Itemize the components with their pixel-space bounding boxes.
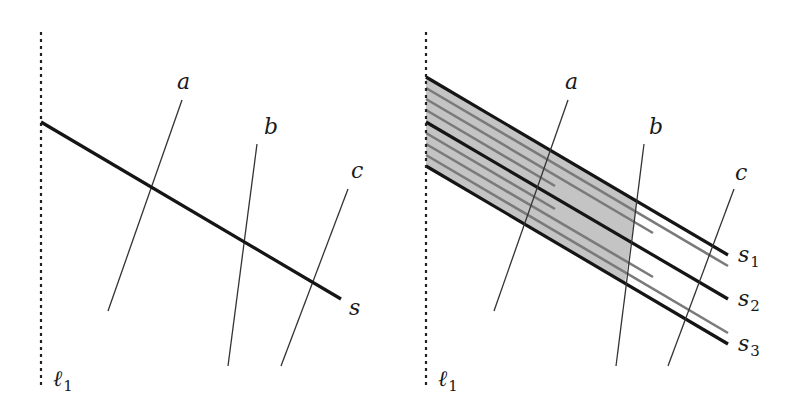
right-panel: s1s2s3abcℓ1 (426, 32, 760, 395)
segment-label-s2: s2 (738, 286, 760, 315)
segment-s2 (426, 122, 728, 299)
boundary-line-l1-label: ℓ1 (53, 366, 73, 395)
segment-label-s1: s1 (738, 242, 760, 271)
segment-s (41, 122, 341, 299)
transversal-label-a-right: a (565, 69, 578, 94)
left-panel: ℓ1abcs (41, 32, 363, 395)
transversal-label-a: a (177, 69, 190, 94)
transversal-c-right (668, 189, 734, 366)
segment-label-s: s (349, 295, 360, 320)
transversal-b (228, 144, 257, 366)
diagram-canvas: ℓ1abcs s1s2s3abcℓ1 (0, 0, 793, 412)
transversal-a (108, 100, 182, 311)
transversal-label-b: b (264, 114, 278, 139)
transversal-label-c: c (351, 158, 363, 183)
transversal-c (281, 189, 348, 366)
transversal-label-c-right: c (735, 160, 747, 185)
segment-label-s3: s3 (738, 331, 760, 360)
boundary-line-l1-right-label: ℓ1 (438, 366, 458, 395)
transversal-label-b-right: b (649, 114, 663, 139)
